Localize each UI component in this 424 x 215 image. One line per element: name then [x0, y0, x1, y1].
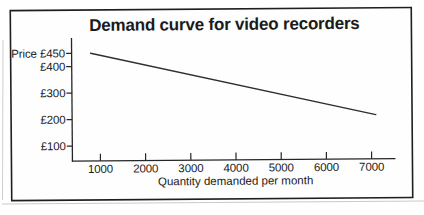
x-tick-label: 4000 — [223, 162, 248, 174]
x-axis-title: Quantity demanded per month — [158, 174, 313, 187]
chart-title: Demand curve for video recorders — [89, 14, 360, 35]
x-tick-label: 5000 — [269, 161, 294, 173]
scan-edge-shadow-left — [3, 40, 4, 200]
x-tick-label: 3000 — [178, 162, 203, 174]
figure-border — [10, 7, 412, 200]
x-tick-label: 1000 — [88, 163, 113, 175]
figure-content: Demand curve for video recorders Price £… — [10, 7, 412, 200]
x-tick-label: 7000 — [359, 161, 384, 173]
y-tick-label: £100 — [41, 140, 66, 152]
y-tick-label: £300 — [40, 87, 65, 99]
y-tick-label: £400 — [40, 61, 65, 73]
x-tick-label: 2000 — [133, 162, 158, 174]
y-tick-label: Price £450 — [11, 47, 65, 59]
y-tick-label: £200 — [40, 114, 65, 126]
demand-curve-figure: Demand curve for video recorders Price £… — [0, 0, 424, 215]
scan-edge-shadow-bottom — [2, 201, 424, 204]
x-tick-label: 6000 — [314, 161, 339, 173]
scanned-page: Demand curve for video recorders Price £… — [0, 0, 424, 215]
